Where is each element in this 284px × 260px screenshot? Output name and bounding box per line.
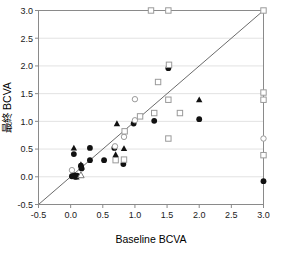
data-point-open-square bbox=[152, 110, 157, 115]
plot-canvas: -0.50.00.51.01.52.02.53.0-0.50.00.51.01.… bbox=[0, 0, 284, 260]
data-point-open-square bbox=[166, 62, 171, 67]
data-point-open-circle bbox=[69, 167, 74, 172]
x-tick-label: 1.0 bbox=[129, 210, 142, 220]
data-point-open-circle bbox=[121, 134, 126, 139]
data-point-filled-circle bbox=[87, 157, 93, 163]
data-point-filled-circle bbox=[151, 118, 157, 124]
x-tick-label: 2.5 bbox=[225, 210, 238, 220]
data-point-open-square bbox=[261, 152, 266, 157]
data-point-open-square bbox=[261, 8, 266, 13]
data-point-filled-circle bbox=[87, 145, 93, 151]
data-point-open-square bbox=[113, 157, 118, 162]
y-tick-label: 0.0 bbox=[20, 172, 33, 182]
y-tick-label: 1.5 bbox=[20, 89, 33, 99]
data-point-open-square bbox=[148, 8, 153, 13]
x-tick-label: 1.5 bbox=[161, 210, 174, 220]
y-tick-label: -0.5 bbox=[17, 200, 33, 210]
series-filled-triangle bbox=[70, 96, 202, 179]
data-point-filled-triangle bbox=[112, 151, 118, 157]
series-open-square bbox=[113, 8, 266, 163]
data-point-filled-circle bbox=[71, 151, 77, 157]
data-point-filled-triangle bbox=[121, 145, 127, 151]
data-point-open-square bbox=[261, 90, 266, 95]
data-point-filled-triangle bbox=[71, 145, 77, 151]
x-tick-label: 2.0 bbox=[193, 210, 206, 220]
data-point-open-circle bbox=[132, 118, 137, 123]
series-open-circle bbox=[69, 96, 266, 172]
data-point-open-square bbox=[155, 79, 160, 84]
x-axis-title: Baseline BCVA bbox=[115, 233, 186, 245]
y-axis-title: 最終 BCVA bbox=[1, 82, 13, 133]
data-point-open-circle bbox=[132, 96, 137, 101]
y-tick-label: 1.0 bbox=[20, 117, 33, 127]
y-tick-label: 0.5 bbox=[20, 144, 33, 154]
series-filled-circle bbox=[69, 65, 266, 184]
data-point-open-square bbox=[166, 8, 171, 13]
y-tick-label: 2.0 bbox=[20, 61, 33, 71]
data-point-filled-circle bbox=[196, 116, 202, 122]
y-tick-label: 3.0 bbox=[20, 6, 33, 16]
data-point-open-square bbox=[122, 129, 127, 134]
data-point-open-circle bbox=[261, 136, 266, 141]
y-tick-label: 2.5 bbox=[20, 34, 33, 44]
data-point-open-square bbox=[166, 136, 171, 141]
data-point-open-square bbox=[177, 110, 182, 115]
data-point-open-square bbox=[261, 97, 266, 102]
scatter-plot-figure: -0.50.00.51.01.52.02.53.0-0.50.00.51.01.… bbox=[0, 0, 284, 260]
x-tick-label: 3.0 bbox=[257, 210, 270, 220]
data-point-filled-triangle bbox=[196, 96, 202, 102]
data-point-open-square bbox=[166, 97, 171, 102]
data-point-filled-circle bbox=[261, 178, 267, 184]
data-point-filled-circle bbox=[101, 157, 107, 163]
x-tick-label: -0.5 bbox=[31, 210, 47, 220]
x-tick-label: 0.5 bbox=[97, 210, 110, 220]
data-point-open-square bbox=[137, 114, 142, 119]
data-point-open-square bbox=[121, 157, 126, 162]
x-tick-label: 0.0 bbox=[64, 210, 77, 220]
data-point-open-circle bbox=[112, 144, 117, 149]
